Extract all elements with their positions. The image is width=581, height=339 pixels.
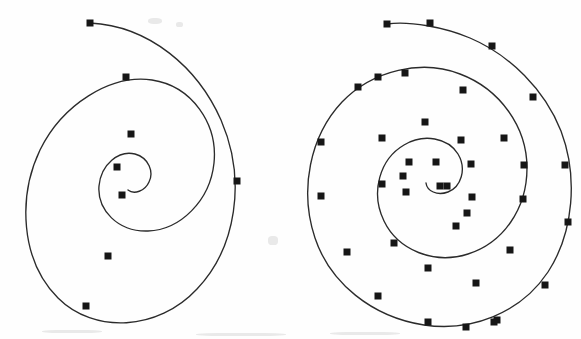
spiral-left-coarse-group (26, 20, 241, 323)
spiral-point-marker (384, 21, 391, 28)
spiral-right-fine-markers (318, 20, 572, 331)
spiral-point-marker (87, 20, 94, 27)
spiral-point-marker (402, 70, 409, 77)
spiral-point-marker (114, 164, 121, 171)
spiral-point-marker (530, 94, 537, 101)
spiral-point-marker (391, 240, 398, 247)
spiral-point-marker (463, 324, 470, 331)
spiral-point-marker (444, 183, 451, 190)
spiral-point-marker (422, 119, 429, 126)
spiral-point-marker (437, 183, 444, 190)
spiral-point-marker (433, 159, 440, 166)
spiral-point-marker (425, 265, 432, 272)
spiral-point-marker (427, 20, 434, 27)
spiral-point-marker (234, 178, 241, 185)
spiral-point-marker (468, 161, 475, 168)
spiral-left-coarse-markers (83, 20, 241, 310)
spiral-point-marker (83, 303, 90, 310)
spiral-point-marker (458, 137, 465, 144)
spiral-right-fine-group (308, 20, 572, 331)
spiral-figure-root (0, 0, 581, 339)
spiral-point-marker (469, 194, 476, 201)
spiral-right-fine-curve (308, 23, 572, 326)
spiral-point-marker (507, 247, 514, 254)
spiral-left-coarse-curve (26, 23, 235, 323)
spiral-point-marker (379, 135, 386, 142)
spiral-point-marker (520, 196, 527, 203)
spiral-point-marker (489, 43, 496, 50)
spiral-point-marker (406, 159, 413, 166)
spiral-figure-canvas (0, 0, 581, 339)
spiral-point-marker (425, 319, 432, 326)
spiral-point-marker (453, 223, 460, 230)
spiral-point-marker (375, 74, 382, 81)
spiral-point-marker (473, 280, 480, 287)
spiral-point-marker (501, 135, 508, 142)
spiral-point-marker (119, 192, 126, 199)
spiral-point-marker (128, 131, 135, 138)
spiral-point-marker (521, 162, 528, 169)
spiral-point-marker (344, 249, 351, 256)
spiral-point-marker (400, 173, 407, 180)
spiral-point-marker (105, 253, 112, 260)
spiral-point-marker (565, 219, 572, 226)
spiral-point-marker (403, 189, 410, 196)
spiral-point-marker (318, 193, 325, 200)
spiral-point-marker (355, 84, 362, 91)
spiral-point-marker (318, 139, 325, 146)
spiral-point-marker (542, 282, 549, 289)
spiral-point-marker (379, 181, 386, 188)
spiral-point-marker (123, 74, 130, 81)
spiral-point-marker (491, 319, 498, 326)
spiral-point-marker (375, 293, 382, 300)
spiral-point-marker (460, 87, 467, 94)
spiral-point-marker (562, 162, 569, 169)
spiral-point-marker (464, 210, 471, 217)
